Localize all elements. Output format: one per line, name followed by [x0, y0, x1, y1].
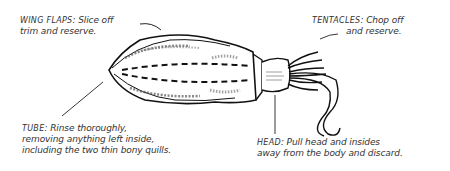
leader-line-tube: [62, 82, 103, 116]
label-head: HEAD: Pull head and insides away from th…: [257, 137, 403, 159]
label-tube-key: TUBE: [22, 124, 45, 133]
label-tentacles: TENTACLES: Chop off and reserve.: [312, 15, 403, 37]
squid-tentacles: [288, 52, 340, 136]
label-wing-flaps: WING FLAPS: Slice off trim and reserve.: [20, 15, 113, 37]
label-head-key: HEAD: [257, 138, 281, 147]
leader-line-wing-flaps: [140, 24, 161, 30]
label-wing-flaps-key: WING FLAPS: [20, 16, 72, 25]
squid-mantle: [109, 35, 256, 104]
label-tube: TUBE: Rinse thoroughly, removing anythin…: [22, 123, 171, 156]
label-tentacles-key: TENTACLES: [312, 16, 360, 25]
squid-head: [253, 54, 290, 100]
